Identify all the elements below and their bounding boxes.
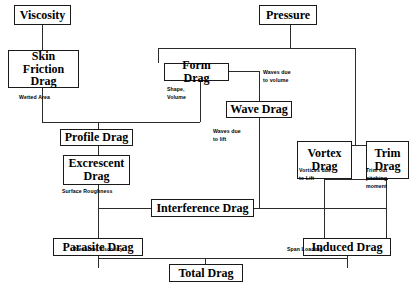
edge-bus-to-form-drag xyxy=(158,48,159,63)
node-profile-drag[interactable]: Profile Drag xyxy=(60,129,133,146)
edge-bus-to-right-branch xyxy=(355,48,356,145)
edge-interference-right-arm xyxy=(253,208,386,209)
edge-viscosity-to-skin-friction xyxy=(42,25,43,50)
node-excrescent-drag[interactable]: Excrescent Drag xyxy=(63,155,130,185)
edge-interference-left-arm xyxy=(98,208,152,209)
note-waves-due-to-volume: Waves due to volume xyxy=(263,68,291,84)
node-pressure[interactable]: Pressure xyxy=(259,5,317,25)
edge-wave-drag-down xyxy=(259,117,260,152)
drag-breakdown-diagram: Viscosity Pressure Skin Friction Drag Fo… xyxy=(0,0,416,283)
note-trim-out-pitching-moment: Trim out pitching moment xyxy=(366,166,387,190)
node-wave-drag[interactable]: Wave Drag xyxy=(226,101,292,118)
edge-wave-drag-to-interference-row xyxy=(259,152,260,208)
edge-induced-down xyxy=(347,256,348,268)
node-total-drag[interactable]: Total Drag xyxy=(169,264,243,282)
node-skin-friction-drag[interactable]: Skin Friction Drag xyxy=(8,50,79,88)
edge-total-drag-bus xyxy=(98,258,347,259)
note-surface-roughness: Surface Roughness xyxy=(62,187,112,195)
edge-profile-bus xyxy=(42,122,200,123)
edge-pressure-bus xyxy=(158,48,355,49)
note-wetted-area: Wetted Area xyxy=(19,93,50,101)
note-span-loading: Span Loading xyxy=(287,245,323,253)
node-interference-drag[interactable]: Interference Drag xyxy=(151,199,254,217)
edge-vortex-drag-down xyxy=(324,179,325,243)
node-viscosity[interactable]: Viscosity xyxy=(14,5,71,25)
node-form-drag[interactable]: Form Drag xyxy=(164,63,229,81)
edge-form-to-wave-horizontal xyxy=(229,71,259,72)
edge-form-to-wave-vertical xyxy=(259,71,260,101)
note-vortices-due-to-lift: Vortices due to Lift xyxy=(299,166,331,182)
note-shape-volume: Shape, Volume xyxy=(167,85,186,101)
note-waves-due-to-lift: Waves due to lift xyxy=(213,127,241,143)
edge-pressure-down xyxy=(290,25,291,48)
edge-form-drag-down-to-profile-bus xyxy=(200,80,201,122)
note-pressure-viscosity: Pressure, Viscosity xyxy=(73,245,123,253)
